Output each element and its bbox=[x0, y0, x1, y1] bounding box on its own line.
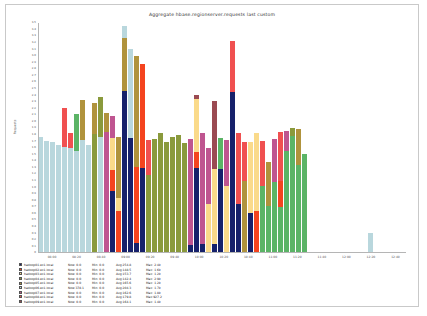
y-tick-label: 1.5 bbox=[32, 153, 36, 156]
chart-bar bbox=[44, 141, 49, 253]
legend-max: Max: 1.4k bbox=[146, 300, 170, 305]
x-tick-label: 08:20 bbox=[72, 255, 81, 259]
bar-segment bbox=[56, 145, 61, 253]
bar-segment bbox=[74, 114, 79, 151]
chart-bar bbox=[230, 41, 235, 253]
y-tick-label: 1.4 bbox=[32, 159, 36, 162]
y-tick-label: 0 bbox=[34, 251, 36, 254]
y-tick-label: 2.1 bbox=[32, 113, 36, 116]
bar-segment bbox=[164, 142, 169, 253]
bar-segment bbox=[68, 148, 73, 253]
legend-color-swatch bbox=[19, 268, 22, 271]
y-tick-label: 1.1 bbox=[32, 179, 36, 182]
legend-avg: Avg:164.1 bbox=[116, 300, 146, 305]
y-tick-label: 3.2 bbox=[32, 41, 36, 44]
bar-segment bbox=[122, 26, 127, 38]
y-tick-label: 0.9 bbox=[32, 192, 36, 195]
y-tick-label: 0.1 bbox=[32, 245, 36, 248]
bar-segment bbox=[200, 244, 205, 253]
bar-segment bbox=[134, 56, 139, 167]
y-tick-label: 0.8 bbox=[32, 199, 36, 202]
bar-segment bbox=[116, 137, 121, 197]
chart-bar bbox=[176, 135, 181, 253]
chart-bar bbox=[278, 132, 283, 253]
x-tick-label: 08:40 bbox=[97, 255, 106, 259]
bar-segment bbox=[296, 129, 301, 164]
chart-bar bbox=[128, 49, 133, 253]
bar-segment bbox=[152, 139, 157, 253]
y-tick-label: 2.0 bbox=[32, 120, 36, 123]
bar-segment bbox=[278, 132, 283, 181]
chart-bar bbox=[140, 64, 145, 253]
bar-segment bbox=[80, 140, 85, 253]
bar-segment bbox=[218, 138, 223, 169]
bar-segment bbox=[266, 206, 271, 253]
y-tick-label: 2.5 bbox=[32, 87, 36, 90]
legend-now: Now: 0.0 bbox=[68, 300, 92, 305]
bar-segment bbox=[194, 95, 199, 99]
bar-segment bbox=[86, 145, 91, 253]
y-tick-label: 0.3 bbox=[32, 232, 36, 235]
chart-bar bbox=[50, 142, 55, 253]
y-tick-label: 1.2 bbox=[32, 172, 36, 175]
x-tick-label: 12:00 bbox=[342, 255, 351, 259]
bar-segment bbox=[248, 213, 253, 253]
y-tick-label: 1.9 bbox=[32, 126, 36, 129]
x-tick-label: 12:20 bbox=[367, 255, 376, 259]
chart-bar bbox=[110, 116, 115, 253]
chart-bar bbox=[236, 133, 241, 253]
legend-row[interactable]: hadoop09.ex1.localNow: 0.0Min: 0.0Avg:16… bbox=[19, 300, 219, 305]
y-tick-label: 2.3 bbox=[32, 100, 36, 103]
bar-segment bbox=[188, 245, 193, 253]
chart-bar bbox=[194, 95, 199, 253]
bar-segment bbox=[224, 140, 229, 186]
y-tick-label: 0.6 bbox=[32, 212, 36, 215]
bar-segment bbox=[116, 211, 121, 253]
bar-segment bbox=[128, 138, 133, 253]
chart-bar bbox=[80, 100, 85, 253]
chart-bar bbox=[212, 101, 217, 253]
x-tick-label: 11:40 bbox=[318, 255, 327, 259]
legend-color-swatch bbox=[19, 300, 22, 303]
x-tick-label: 10:40 bbox=[244, 255, 253, 259]
chart-bar bbox=[134, 56, 139, 253]
y-axis-ticks: 00.10.20.30.40.50.60.70.80.91.01.11.21.3… bbox=[6, 23, 38, 254]
y-tick-label: 2.6 bbox=[32, 80, 36, 83]
x-tick-label: 12:40 bbox=[391, 255, 400, 259]
bar-segment bbox=[182, 143, 187, 253]
bar-segment bbox=[260, 186, 265, 253]
bar-segment bbox=[104, 113, 109, 132]
plot-area bbox=[38, 23, 406, 253]
y-tick-label: 2.8 bbox=[32, 67, 36, 70]
y-tick-label: 1.6 bbox=[32, 146, 36, 149]
bar-segment bbox=[194, 99, 199, 153]
y-tick-label: 3.3 bbox=[32, 34, 36, 37]
bar-segment bbox=[68, 133, 73, 148]
bar-segment bbox=[278, 181, 283, 207]
bar-segment bbox=[50, 142, 55, 253]
legend-color-swatch bbox=[19, 291, 22, 294]
bar-segment bbox=[116, 198, 121, 211]
bar-segment bbox=[284, 131, 289, 150]
bar-segment bbox=[272, 182, 277, 253]
bar-segment bbox=[218, 169, 223, 253]
bar-segment bbox=[266, 162, 271, 205]
bar-segment bbox=[104, 132, 109, 253]
bar-segment bbox=[158, 133, 163, 253]
bar-segment bbox=[254, 133, 259, 211]
y-tick-label: 1.8 bbox=[32, 133, 36, 136]
x-tick-label: 09:40 bbox=[170, 255, 179, 259]
bar-segment bbox=[236, 133, 241, 205]
bar-segment bbox=[110, 170, 115, 192]
x-tick-label: 11:20 bbox=[293, 255, 302, 259]
bar-segment bbox=[212, 244, 217, 253]
y-tick-label: 2.2 bbox=[32, 107, 36, 110]
y-tick-label: 3.1 bbox=[32, 48, 36, 51]
x-axis-ticks: 08:0008:2008:4009:0009:2009:4010:0010:20… bbox=[38, 255, 406, 263]
bar-segment bbox=[188, 139, 193, 245]
bar-segment bbox=[146, 140, 151, 175]
chart-bar bbox=[92, 103, 97, 253]
x-tick-label: 08:00 bbox=[48, 255, 57, 259]
bar-segment bbox=[194, 152, 199, 168]
chart-bar bbox=[170, 137, 175, 253]
